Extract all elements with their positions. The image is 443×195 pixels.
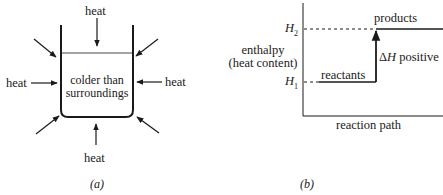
caption-a: (a) — [90, 178, 104, 190]
x-axis-label: reaction path — [336, 119, 401, 132]
h2-label: H2 — [285, 22, 298, 38]
heat-label-left: heat — [6, 77, 27, 90]
delta-var: H — [387, 50, 396, 64]
beaker-text-line2: surroundings — [62, 87, 132, 100]
h2-var: H — [285, 21, 294, 35]
y-axis-label-line2: (heat content) — [225, 57, 301, 70]
h1-label: H1 — [285, 75, 298, 91]
beaker-text: colder than surroundings — [62, 74, 132, 100]
heat-arrow-upper-right — [136, 39, 158, 56]
heat-label-right: heat — [165, 76, 186, 89]
heat-arrow-lower-right — [137, 117, 159, 133]
h2-subscript: 2 — [294, 29, 298, 38]
h1-var: H — [285, 74, 294, 88]
h1-subscript: 1 — [294, 82, 298, 91]
heat-label-top: heat — [85, 5, 106, 18]
heat-arrow-lower-left — [36, 116, 59, 134]
delta-symbol: Δ — [379, 50, 387, 64]
delta-h-label: ΔH positive — [379, 51, 439, 64]
delta-text: positive — [396, 50, 439, 64]
heat-arrow-upper-left — [34, 39, 56, 57]
products-label: products — [374, 12, 417, 25]
heat-label-bottom: heat — [84, 152, 105, 165]
caption-b: (b) — [300, 178, 314, 190]
reactants-label: reactants — [321, 69, 365, 82]
y-axis-label: enthalpy (heat content) — [225, 44, 301, 70]
